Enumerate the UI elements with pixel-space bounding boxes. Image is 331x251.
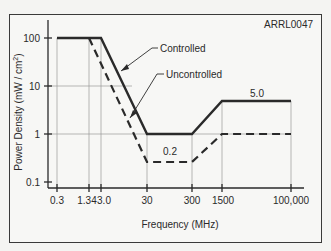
- callouts: [121, 48, 164, 118]
- x-tick-30: 30: [141, 195, 153, 206]
- power-density-chart: 100 10 1 0.1 0.3 1.34 3.0 30 300 1500 10…: [0, 0, 331, 251]
- x-tick-100000: 100,000: [273, 195, 310, 206]
- x-tick-3.0: 3.0: [97, 195, 111, 206]
- y-axis-label: Power Density (mW / cm2): [12, 53, 24, 170]
- y-tick-100: 100: [23, 33, 40, 44]
- y-tick-labels: 100 10 1 0.1: [23, 33, 40, 188]
- x-tick-1500: 1500: [212, 195, 235, 206]
- annotation-0.2: 0.2: [163, 146, 177, 157]
- x-tick-1.34: 1.34: [77, 195, 97, 206]
- annotation-5.0: 5.0: [250, 88, 264, 99]
- x-tick-300: 300: [184, 195, 201, 206]
- x-tick-0.3: 0.3: [50, 195, 64, 206]
- y-tick-0.1: 0.1: [26, 177, 40, 188]
- grid: [48, 38, 291, 188]
- legend-uncontrolled: Uncontrolled: [166, 69, 222, 80]
- x-tick-labels: 0.3 1.34 3.0 30 300 1500 100,000: [50, 195, 309, 206]
- y-tick-10: 10: [29, 81, 41, 92]
- x-axis-label: Frequency (MHz): [141, 219, 218, 230]
- figure-id: ARRL0047: [264, 19, 313, 30]
- y-tick-1: 1: [34, 129, 40, 140]
- legend-controlled: Controlled: [160, 43, 206, 54]
